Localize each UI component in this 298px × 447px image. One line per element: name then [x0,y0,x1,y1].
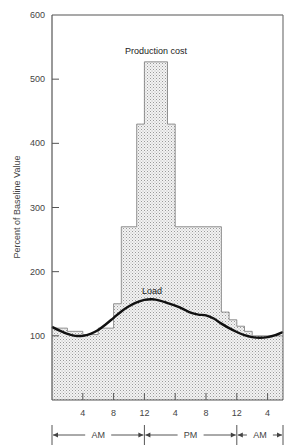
production-cost-annotation: Production cost [125,46,188,56]
y-tick-label: 100 [30,331,45,341]
period-label: AM [253,430,267,440]
y-tick-label: 600 [30,10,45,20]
arrowhead-left [145,433,150,438]
y-tick-label: 200 [30,267,45,277]
x-tick-label: 4 [265,408,270,418]
arrowhead-left [53,433,58,438]
period-label: AM [91,430,105,440]
x-tick-label: 4 [80,408,85,418]
y-tick-label: 400 [30,138,45,148]
x-tick-label: 4 [173,408,178,418]
arrowhead-right [277,433,282,438]
arrowhead-right [231,433,236,438]
y-axis-label: Percent of Baseline Value [12,156,22,259]
x-tick-label: 8 [111,408,116,418]
y-tick-label: 500 [30,74,45,84]
x-tick-label: 12 [139,408,149,418]
load-annotation: Load [142,286,162,296]
x-tick-label: 12 [232,408,242,418]
x-tick-label: 8 [203,408,208,418]
plot-area: 100200300400500600481248124AMPMAM [30,10,283,445]
arrowhead-left [238,433,243,438]
arrowhead-right [138,433,143,438]
period-label: PM [184,430,198,440]
chart: 100200300400500600481248124AMPMAM Percen… [0,0,298,447]
y-tick-label: 300 [30,203,45,213]
